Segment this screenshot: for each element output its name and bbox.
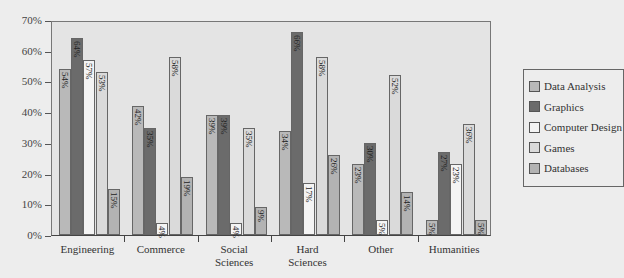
y-tick-label: 50% xyxy=(0,75,42,87)
bar-value-label: 58% xyxy=(169,60,181,77)
bar-computer-design: 4% xyxy=(156,223,168,235)
bar-value-label: 52% xyxy=(389,78,401,95)
legend-label: Databases xyxy=(544,162,589,174)
bar-value-label: 35% xyxy=(144,131,156,148)
bar-value-label: 36% xyxy=(463,127,475,144)
bar-games: 58% xyxy=(169,57,181,235)
bar-value-label: 23% xyxy=(352,167,364,184)
y-tick-label: 40% xyxy=(0,106,42,118)
bar-graphics: 27% xyxy=(438,152,450,235)
bar-value-label: 5% xyxy=(475,223,487,235)
bar-databases: 15% xyxy=(108,189,120,235)
legend-item: Data Analysis xyxy=(529,76,623,97)
plot-area: 54%64%57%53%15%42%35%4%58%19%39%39%4%35%… xyxy=(51,21,491,236)
bar-graphics: 30% xyxy=(364,143,376,235)
x-category-label: SocialSciences xyxy=(198,243,271,269)
bar-value-label: 9% xyxy=(255,210,267,222)
bar-computer-design: 23% xyxy=(450,164,462,235)
bar-graphics: 66% xyxy=(291,32,303,235)
bar-data-analysis: 5% xyxy=(426,220,438,235)
legend-item: Graphics xyxy=(529,97,623,118)
bar-graphics: 35% xyxy=(144,128,156,236)
bar-value-label: 39% xyxy=(218,118,230,135)
bar-data-analysis: 23% xyxy=(352,164,364,235)
legend-swatch xyxy=(529,122,540,133)
legend-swatch xyxy=(529,101,540,112)
bar-value-label: 4% xyxy=(230,226,242,238)
legend-item: Computer Design xyxy=(529,117,623,138)
bar-computer-design: 4% xyxy=(230,223,242,235)
x-category-label: Humanities xyxy=(418,243,491,256)
bar-computer-design: 17% xyxy=(303,183,315,235)
bar-value-label: 54% xyxy=(59,72,71,89)
bar-data-analysis: 39% xyxy=(206,115,218,235)
bar-value-label: 14% xyxy=(401,195,413,212)
bar-value-label: 26% xyxy=(328,158,340,175)
bar-games: 36% xyxy=(463,124,475,235)
bar-value-label: 30% xyxy=(364,146,376,163)
bar-value-label: 39% xyxy=(206,118,218,135)
legend-swatch xyxy=(529,142,540,153)
bar-games: 58% xyxy=(316,57,328,235)
bar-data-analysis: 42% xyxy=(132,106,144,235)
x-category-label: Engineering xyxy=(51,243,124,256)
bar-value-label: 64% xyxy=(71,41,83,58)
bar-databases: 19% xyxy=(181,177,193,235)
y-tick-label: 20% xyxy=(0,168,42,180)
x-tick-mark xyxy=(124,236,125,242)
x-tick-mark xyxy=(271,236,272,242)
bar-databases: 5% xyxy=(475,220,487,235)
bar-value-label: 34% xyxy=(279,134,291,151)
y-tick-label: 70% xyxy=(0,14,42,26)
bar-value-label: 27% xyxy=(438,155,450,172)
x-category-label: Commerce xyxy=(124,243,197,256)
bar-value-label: 5% xyxy=(426,223,438,235)
legend-swatch xyxy=(529,81,540,92)
x-tick-mark xyxy=(344,236,345,242)
legend-swatch xyxy=(529,163,540,174)
legend-item: Games xyxy=(529,138,623,159)
bar-value-label: 19% xyxy=(181,180,193,197)
legend-label: Graphics xyxy=(544,101,584,113)
bar-value-label: 15% xyxy=(108,192,120,209)
bar-value-label: 42% xyxy=(132,109,144,126)
bar-value-label: 58% xyxy=(316,60,328,77)
bar-value-label: 53% xyxy=(96,75,108,92)
x-category-label: HardSciences xyxy=(271,243,344,269)
legend-label: Computer Design xyxy=(544,121,622,133)
bar-value-label: 66% xyxy=(291,35,303,52)
bar-value-label: 35% xyxy=(243,131,255,148)
bar-databases: 14% xyxy=(401,192,413,235)
legend-label: Data Analysis xyxy=(544,80,605,92)
y-tick-label: 0% xyxy=(0,229,42,241)
bar-value-label: 17% xyxy=(303,186,315,203)
legend-item: Databases xyxy=(529,158,623,179)
bar-games: 35% xyxy=(243,128,255,236)
bar-value-label: 57% xyxy=(83,63,95,80)
x-tick-mark xyxy=(198,236,199,242)
bar-games: 53% xyxy=(96,72,108,235)
bar-computer-design: 57% xyxy=(83,60,95,235)
bar-databases: 9% xyxy=(255,207,267,235)
bar-graphics: 39% xyxy=(218,115,230,235)
y-tick-mark xyxy=(45,236,51,237)
bar-computer-design: 5% xyxy=(376,220,388,235)
y-tick-label: 30% xyxy=(0,137,42,149)
bar-graphics: 64% xyxy=(71,38,83,235)
legend-label: Games xyxy=(544,142,575,154)
bar-databases: 26% xyxy=(328,155,340,235)
bar-value-label: 5% xyxy=(376,223,388,235)
y-tick-label: 10% xyxy=(0,198,42,210)
bar-games: 52% xyxy=(389,75,401,235)
bar-data-analysis: 54% xyxy=(59,69,71,235)
bar-data-analysis: 34% xyxy=(279,131,291,235)
bar-value-label: 4% xyxy=(156,226,168,238)
x-tick-mark xyxy=(418,236,419,242)
bar-value-label: 23% xyxy=(450,167,462,184)
y-tick-label: 60% xyxy=(0,45,42,57)
legend: Data AnalysisGraphicsComputer DesignGame… xyxy=(523,69,624,187)
x-category-label: Other xyxy=(344,243,417,256)
